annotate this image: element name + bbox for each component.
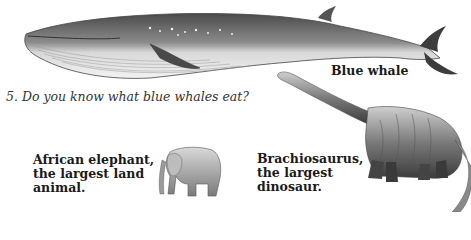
elephant-caption-line-3: animal.: [33, 181, 154, 195]
elephant-caption-line-1: African elephant,: [33, 153, 154, 167]
african-elephant-illustration: [159, 147, 221, 196]
brachiosaurus-caption-line-2: the largest: [257, 166, 363, 180]
question-5: 5. Do you know what blue whales eat?: [6, 89, 249, 104]
brachiosaurus-caption-line-3: dinosaur.: [257, 180, 363, 194]
elephant-caption-line-2: the largest land: [33, 167, 154, 181]
blue-whale-label: Blue whale: [331, 64, 408, 78]
brachiosaurus-caption: Brachiosaurus, the largest dinosaur.: [257, 152, 363, 194]
elephant-caption: African elephant, the largest land anima…: [33, 153, 154, 195]
brachiosaurus-caption-line-1: Brachiosaurus,: [257, 152, 363, 166]
